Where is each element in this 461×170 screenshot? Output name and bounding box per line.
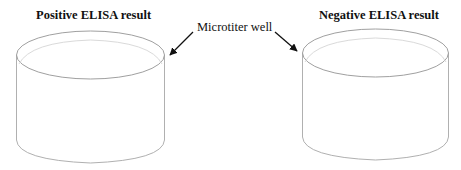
positive-result-title: Positive ELISA result [36, 8, 151, 23]
microtiter-well-label: Microtiter well [197, 20, 272, 35]
arrow-to-positive-well [170, 32, 193, 55]
negative-result-title: Negative ELISA result [319, 8, 439, 23]
elisa-diagram: Positive ELISA result Negative ELISA res… [0, 0, 461, 170]
negative-well [303, 29, 449, 160]
arrow-to-negative-well [275, 32, 297, 51]
positive-well [17, 31, 165, 163]
